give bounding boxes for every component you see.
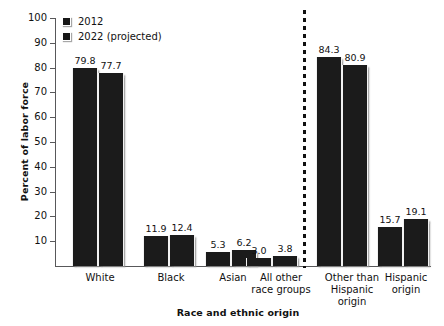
bar-value-allother-2022: 3.8 <box>277 244 292 254</box>
legend-swatch-icon <box>62 32 71 41</box>
bar-hispanic-2022[interactable] <box>403 219 429 266</box>
y-tick-label-10: 10 <box>21 236 47 246</box>
y-tick-90: 90 <box>0 43 55 44</box>
bar-wrap-hispanic-2012: 15.7 <box>377 17 403 266</box>
bar-nonhispanic-2012[interactable] <box>316 57 342 266</box>
bar-white-2022[interactable] <box>98 73 124 266</box>
bar-white-2012[interactable] <box>72 68 98 266</box>
bar-value-nonhispanic-2012: 84.3 <box>318 45 339 55</box>
category-label-black: Black <box>141 272 201 284</box>
bar-wrap-nonhispanic-2012: 84.3 <box>316 17 342 266</box>
bar-nonhispanic-2022[interactable] <box>342 65 368 266</box>
bar-value-white-2012: 79.8 <box>74 56 95 66</box>
bar-group-all-other: 3.0 3.8 <box>246 17 298 266</box>
bar-group-black: 11.9 12.4 <box>143 17 195 266</box>
bar-value-black-2022: 12.4 <box>171 223 192 233</box>
bar-wrap-white-2012: 79.8 <box>72 17 98 266</box>
bar-wrap-white-2022: 77.7 <box>98 17 124 266</box>
bar-group-other-than-hispanic: 84.3 80.9 <box>316 17 368 266</box>
bar-asian-2012[interactable] <box>205 252 231 266</box>
x-axis-title: Race and ethnic origin <box>158 307 318 318</box>
bar-chart-figure: 100 90 80 70 60 50 40 30 20 10 Percent o… <box>0 0 444 326</box>
bar-value-hispanic-2012: 15.7 <box>379 215 400 225</box>
bar-value-black-2012: 11.9 <box>145 224 166 234</box>
bar-wrap-hispanic-2022: 19.1 <box>403 17 429 266</box>
bar-wrap-allother-2022: 3.8 <box>272 17 298 266</box>
bar-allother-2022[interactable] <box>272 256 298 266</box>
y-tick-100: 100 <box>0 18 55 19</box>
y-tick-label-90: 90 <box>21 38 47 48</box>
bar-wrap-black-2012: 11.9 <box>143 17 169 266</box>
bar-value-white-2022: 77.7 <box>100 61 121 71</box>
bar-group-hispanic: 15.7 19.1 <box>377 17 429 266</box>
y-tick-10: 10 <box>0 241 55 242</box>
category-label-white: White <box>70 272 130 284</box>
bar-allother-2012[interactable] <box>246 258 272 266</box>
bar-value-nonhispanic-2022: 80.9 <box>344 53 365 63</box>
bar-black-2022[interactable] <box>169 235 195 266</box>
bar-group-white: 79.8 77.7 <box>72 17 124 266</box>
bar-wrap-nonhispanic-2022: 80.9 <box>342 17 368 266</box>
legend-swatch-icon <box>62 17 71 26</box>
bar-wrap-black-2022: 12.4 <box>169 17 195 266</box>
x-axis-line <box>55 266 431 267</box>
bar-value-hispanic-2022: 19.1 <box>405 207 426 217</box>
y-tick-label-100: 100 <box>21 13 47 23</box>
bar-value-asian-2012: 5.3 <box>210 240 225 250</box>
bar-hispanic-2012[interactable] <box>377 227 403 266</box>
bar-black-2012[interactable] <box>143 236 169 266</box>
y-axis-line <box>55 18 56 267</box>
category-divider <box>303 10 306 268</box>
category-label-hispanic: Hispanic origin <box>368 272 444 296</box>
y-axis-title: Percent of labor force <box>19 57 30 227</box>
bar-value-allother-2012: 3.0 <box>251 246 266 256</box>
bar-wrap-allother-2012: 3.0 <box>246 17 272 266</box>
bar-wrap-asian-2012: 5.3 <box>205 17 231 266</box>
